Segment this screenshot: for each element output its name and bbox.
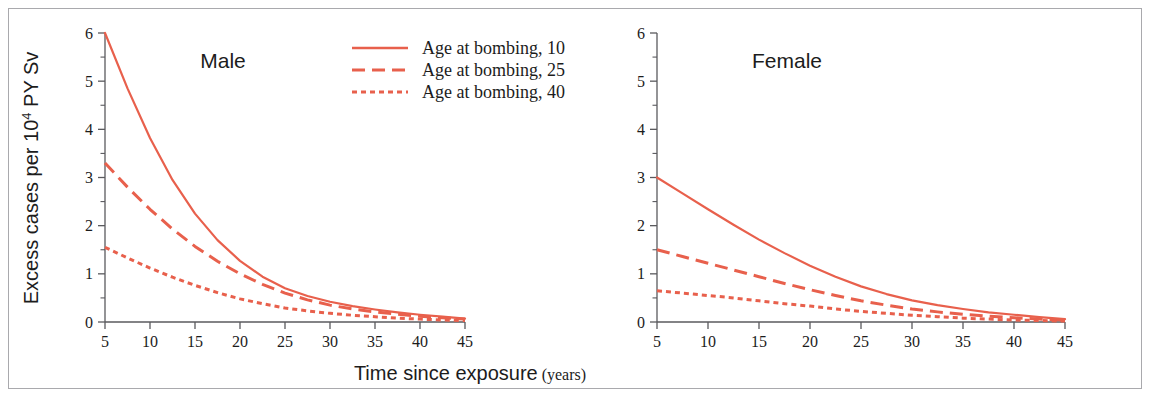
x-tick-label: 45 bbox=[1057, 333, 1073, 350]
figure-root: 012345651015202530354045Male012345651015… bbox=[0, 0, 1152, 407]
legend-label-dashed: Age at bombing, 25 bbox=[422, 60, 565, 80]
x-tick-label: 45 bbox=[457, 333, 473, 350]
panel-title-male: Male bbox=[200, 49, 246, 72]
x-tick-label: 10 bbox=[142, 333, 158, 350]
x-tick-label: 30 bbox=[904, 333, 920, 350]
y-tick-label: 2 bbox=[637, 217, 645, 234]
series-line-solid bbox=[105, 33, 465, 319]
y-tick-label: 4 bbox=[637, 121, 645, 138]
legend: Age at bombing, 10Age at bombing, 25Age … bbox=[352, 38, 565, 102]
chart-canvas: 012345651015202530354045Male012345651015… bbox=[0, 0, 1152, 407]
y-tick-label: 5 bbox=[637, 73, 645, 90]
y-tick-label: 1 bbox=[637, 265, 645, 282]
x-tick-label: 35 bbox=[955, 333, 971, 350]
x-tick-label: 5 bbox=[653, 333, 661, 350]
x-axis-label-text: Time since exposure (years) bbox=[354, 362, 586, 384]
y-axis-label-text: Excess cases per 104 PY Sv bbox=[19, 52, 42, 305]
x-tick-label: 10 bbox=[700, 333, 716, 350]
x-tick-label: 25 bbox=[853, 333, 869, 350]
series-line-solid bbox=[657, 178, 1065, 320]
panel-male: 012345651015202530354045Male bbox=[85, 25, 473, 351]
y-tick-label: 2 bbox=[85, 217, 93, 234]
x-tick-label: 15 bbox=[187, 333, 203, 350]
series-line-dashed bbox=[105, 163, 465, 319]
x-tick-label: 20 bbox=[232, 333, 248, 350]
y-tick-label: 6 bbox=[85, 25, 93, 42]
x-tick-label: 35 bbox=[367, 333, 383, 350]
x-tick-label: 20 bbox=[802, 333, 818, 350]
y-axis-label: Excess cases per 104 PY Sv bbox=[19, 52, 42, 305]
series-line-dotted bbox=[105, 247, 465, 320]
legend-label-dotted: Age at bombing, 40 bbox=[422, 82, 565, 102]
y-tick-label: 4 bbox=[85, 121, 93, 138]
panel-title-female: Female bbox=[752, 49, 822, 72]
y-tick-label: 6 bbox=[637, 25, 645, 42]
x-tick-label: 25 bbox=[277, 333, 293, 350]
y-tick-label: 0 bbox=[85, 314, 93, 331]
y-tick-label: 3 bbox=[85, 169, 93, 186]
series-line-dashed bbox=[657, 250, 1065, 320]
x-tick-label: 15 bbox=[751, 333, 767, 350]
y-tick-label: 3 bbox=[637, 169, 645, 186]
y-tick-label: 0 bbox=[637, 314, 645, 331]
y-tick-label: 1 bbox=[85, 265, 93, 282]
panel-female: 012345651015202530354045Female bbox=[637, 25, 1073, 351]
x-tick-label: 40 bbox=[412, 333, 428, 350]
y-tick-label: 5 bbox=[85, 73, 93, 90]
series-line-dotted bbox=[657, 291, 1065, 321]
x-tick-label: 40 bbox=[1006, 333, 1022, 350]
x-axis-label: Time since exposure (years) bbox=[354, 362, 586, 384]
x-tick-label: 5 bbox=[101, 333, 109, 350]
legend-label-solid: Age at bombing, 10 bbox=[422, 38, 565, 58]
x-tick-label: 30 bbox=[322, 333, 338, 350]
